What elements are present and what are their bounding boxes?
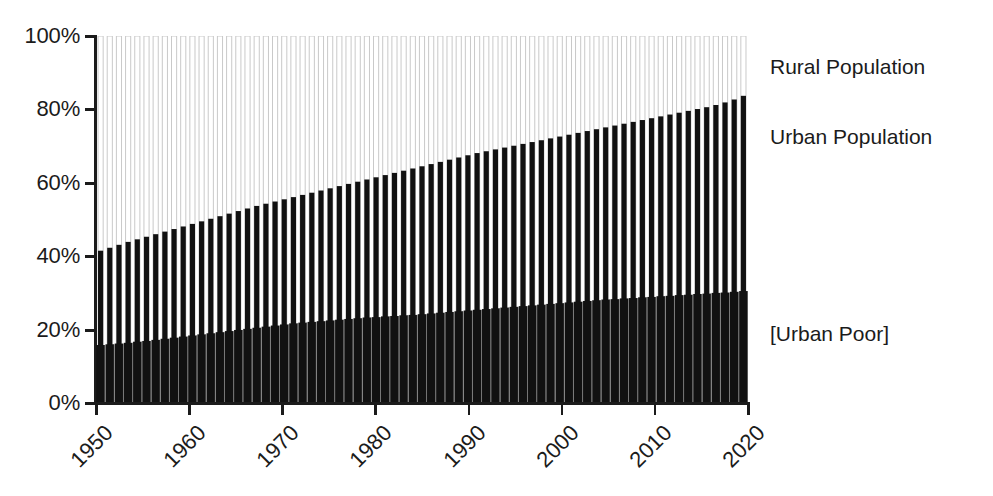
bar-separator [573, 302, 574, 403]
bar-separator [160, 340, 161, 403]
bar-separator [233, 331, 234, 403]
bar-urban-poor [298, 323, 307, 403]
bar-urban-poor [372, 317, 381, 403]
bar-urban-poor [106, 344, 115, 403]
bar-separator [316, 322, 317, 403]
bar-separator [747, 291, 748, 403]
bar-separator [279, 326, 280, 403]
series-label-urban-poor: [Urban Poor] [770, 322, 889, 346]
bar-separator [490, 309, 491, 403]
bar-urban-poor [280, 324, 289, 403]
bar-separator [408, 315, 409, 403]
bar-separator [105, 345, 106, 403]
bar-urban-poor [252, 328, 261, 403]
bar-urban-poor [519, 306, 528, 403]
bar-separator [637, 298, 638, 403]
bar-urban-poor [243, 329, 252, 403]
bar-separator [224, 332, 225, 403]
bar-separator [701, 294, 702, 403]
bar-separator [656, 297, 657, 403]
bar-separator [518, 307, 519, 403]
x-axis-tick-1990 [468, 404, 471, 415]
bar-separator [426, 314, 427, 403]
bar-urban-poor [133, 342, 142, 403]
x-axis-label-1990: 1990 [426, 420, 491, 485]
bar-urban-poor [142, 341, 151, 403]
bar-separator [215, 333, 216, 403]
bar-urban-poor [216, 332, 225, 403]
bar-urban-poor [583, 301, 592, 403]
bar-urban-poor [179, 337, 188, 403]
bar-separator [325, 321, 326, 403]
bar-urban-poor [482, 309, 491, 403]
bar-urban-poor [317, 321, 326, 403]
bar-urban-poor [546, 304, 555, 403]
bar-urban-poor [326, 320, 335, 403]
bar-urban-poor [730, 292, 739, 403]
bar-separator [242, 330, 243, 403]
bar-separator [628, 298, 629, 403]
y-axis-label-20: 20% [4, 317, 80, 343]
bar-separator [536, 305, 537, 403]
bar-separator [499, 308, 500, 403]
bar-urban-poor [491, 308, 500, 403]
bar-urban-poor [197, 334, 206, 403]
bar-separator [591, 301, 592, 403]
bar-urban-poor [335, 320, 344, 403]
bar-urban-poor [611, 299, 620, 403]
bar-separator [683, 295, 684, 403]
bar-separator [288, 324, 289, 403]
bar-urban-poor [271, 326, 280, 403]
bar-urban-poor [207, 333, 216, 403]
bar-separator [380, 317, 381, 403]
x-axis-tick-2020 [747, 404, 750, 415]
bar-urban-poor [363, 317, 372, 403]
bar-urban-poor [427, 313, 436, 403]
x-axis-line [94, 402, 750, 405]
bar-urban-poor [555, 303, 564, 403]
y-axis-label-80: 80% [4, 96, 80, 122]
bars-canvas [96, 36, 748, 403]
bar-urban-poor [565, 302, 574, 403]
bar-urban-poor [574, 302, 583, 403]
bar-separator [619, 299, 620, 403]
bar-separator [114, 344, 115, 403]
bar-urban-poor [161, 339, 170, 403]
bar-urban-poor [647, 297, 656, 403]
bar-urban-poor [353, 318, 362, 403]
bar-urban-poor [601, 300, 610, 403]
bar-urban-poor [528, 305, 537, 403]
x-axis-tick-1960 [188, 404, 191, 415]
bar-separator [711, 294, 712, 403]
bar-urban-poor [656, 296, 665, 403]
bar-separator [334, 320, 335, 403]
bar-separator [371, 317, 372, 403]
bar-urban-poor [262, 327, 271, 403]
bar-separator [444, 313, 445, 403]
bar-urban-poor [739, 291, 748, 403]
bar-separator [151, 341, 152, 403]
y-axis-tick-20 [85, 329, 95, 332]
bar-separator [389, 316, 390, 403]
x-axis-tick-1950 [95, 404, 98, 415]
bar-separator [187, 337, 188, 403]
bar-separator [463, 311, 464, 403]
bar-urban-poor [289, 323, 298, 403]
plot-area [96, 36, 748, 403]
x-axis-tick-2000 [561, 404, 564, 415]
bar-separator [353, 319, 354, 403]
bar-separator [252, 329, 253, 403]
bar-separator [297, 323, 298, 403]
bar-urban-poor [124, 343, 133, 403]
bar-urban-poor [188, 335, 197, 403]
bar-urban-poor [225, 331, 234, 403]
bar-separator [123, 344, 124, 403]
bar-separator [472, 311, 473, 403]
bar-separator [674, 296, 675, 403]
bar-separator [582, 302, 583, 403]
bar-separator [555, 304, 556, 403]
x-axis-label-2020: 2020 [705, 420, 770, 485]
bar-separator [398, 316, 399, 403]
bar-urban-poor [399, 315, 408, 403]
bar-urban-poor [390, 316, 399, 403]
